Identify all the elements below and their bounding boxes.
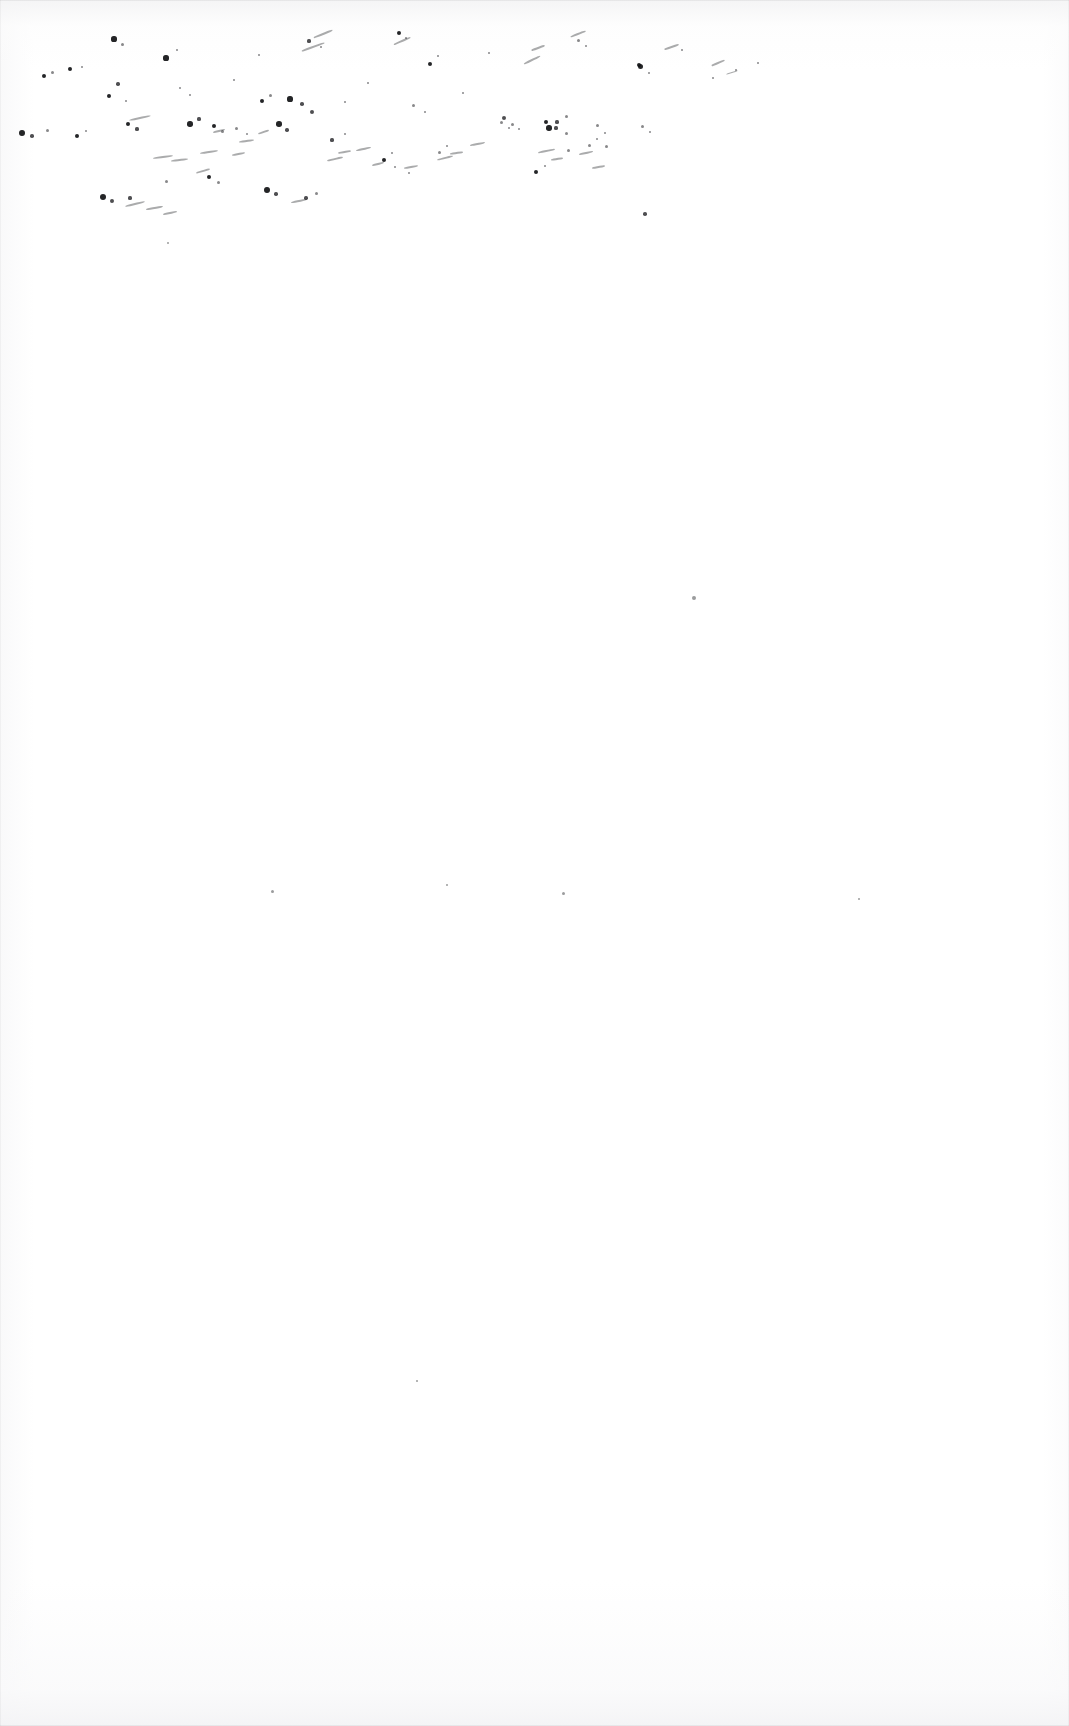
- ink-speck: [534, 170, 538, 174]
- ink-streak: [711, 59, 724, 66]
- ink-speck: [544, 165, 547, 168]
- ink-speck: [648, 72, 651, 75]
- ink-streak: [338, 150, 351, 154]
- ink-speck: [274, 192, 277, 195]
- ink-speck: [502, 116, 506, 120]
- ink-speck: [735, 69, 738, 72]
- page-edge-top: [0, 0, 1069, 1]
- ink-speck: [187, 121, 192, 126]
- ink-streak: [531, 45, 545, 51]
- ink-speck: [588, 144, 591, 147]
- ink-speck: [757, 62, 759, 64]
- ink-speck: [554, 126, 557, 129]
- ink-speck: [85, 130, 88, 133]
- ink-speck: [638, 64, 643, 69]
- ink-speck: [508, 127, 511, 130]
- ink-speck: [300, 102, 304, 106]
- ink-speck: [51, 71, 54, 74]
- ink-speck: [163, 55, 168, 60]
- ink-streak: [327, 156, 343, 161]
- ink-streak: [570, 30, 585, 37]
- ink-speck: [605, 145, 608, 148]
- ink-speck: [287, 96, 292, 101]
- ink-streak: [393, 36, 410, 45]
- ink-speck: [344, 101, 347, 104]
- ink-speck: [197, 117, 200, 120]
- ink-speck: [260, 99, 265, 104]
- ink-streak: [258, 129, 269, 134]
- ink-speck: [126, 122, 130, 126]
- ink-speck: [577, 39, 580, 42]
- ink-speck: [217, 181, 220, 184]
- ink-speck: [518, 128, 521, 131]
- ink-streak: [153, 155, 173, 160]
- ink-speck: [315, 192, 318, 195]
- ink-speck: [116, 82, 119, 85]
- ink-speck: [30, 134, 34, 138]
- ink-speck: [233, 79, 236, 82]
- ink-streak: [726, 70, 738, 75]
- ink-speck: [42, 74, 47, 79]
- ink-speck: [310, 110, 314, 114]
- ink-speck: [382, 158, 386, 162]
- ink-speck: [111, 36, 116, 41]
- ink-speck: [546, 125, 551, 130]
- ink-speck: [81, 66, 84, 69]
- ink-speck: [391, 152, 394, 155]
- ink-streak: [372, 161, 384, 166]
- ink-streak: [239, 139, 254, 143]
- ink-speck: [221, 130, 224, 133]
- ink-speck: [165, 180, 168, 183]
- ink-speck: [488, 52, 490, 54]
- ink-speck: [428, 62, 432, 66]
- ink-speck: [189, 94, 191, 96]
- ink-streak: [579, 150, 593, 155]
- ink-speck: [408, 172, 410, 174]
- ink-streak: [470, 142, 485, 147]
- ink-streak: [664, 44, 679, 50]
- ink-speck: [712, 77, 715, 80]
- ink-speck: [320, 46, 322, 48]
- page-content-area: [0, 240, 1069, 1680]
- ink-speck: [307, 39, 310, 42]
- ink-streak: [129, 115, 151, 122]
- ink-speck: [107, 94, 111, 98]
- ink-speck: [235, 127, 238, 130]
- ink-streak: [213, 129, 225, 134]
- ink-speck: [110, 199, 114, 203]
- ink-speck: [246, 133, 249, 136]
- ink-speck: [264, 187, 270, 193]
- ink-speck: [412, 104, 415, 107]
- ink-speck: [179, 87, 182, 90]
- ink-speck: [446, 145, 449, 148]
- ink-speck: [176, 49, 179, 52]
- ink-speck: [585, 45, 587, 47]
- ink-speck: [135, 127, 138, 130]
- ink-streak: [146, 206, 163, 211]
- ink-speck: [565, 132, 568, 135]
- ink-speck: [500, 121, 503, 124]
- ink-speck: [596, 124, 599, 127]
- ink-streak: [196, 168, 210, 174]
- ink-speck: [121, 43, 124, 46]
- ink-speck: [641, 125, 644, 128]
- ink-speck: [19, 130, 25, 136]
- ink-speck: [405, 37, 408, 40]
- ink-speck: [397, 31, 401, 35]
- ink-streak: [200, 150, 218, 155]
- ink-speck: [276, 121, 282, 127]
- ink-speck: [128, 196, 131, 199]
- ink-speck: [604, 132, 607, 135]
- ink-speck: [643, 212, 647, 216]
- ink-streak: [404, 165, 418, 169]
- ink-streak: [356, 146, 371, 151]
- ink-speck: [544, 120, 549, 125]
- ink-speck: [438, 151, 441, 154]
- ink-streak: [301, 42, 324, 52]
- ink-speck: [125, 100, 128, 103]
- ink-streak: [125, 201, 145, 208]
- ink-speck: [681, 49, 683, 51]
- ink-speck: [437, 55, 439, 57]
- ink-speck: [46, 129, 49, 132]
- ink-streak: [291, 198, 307, 203]
